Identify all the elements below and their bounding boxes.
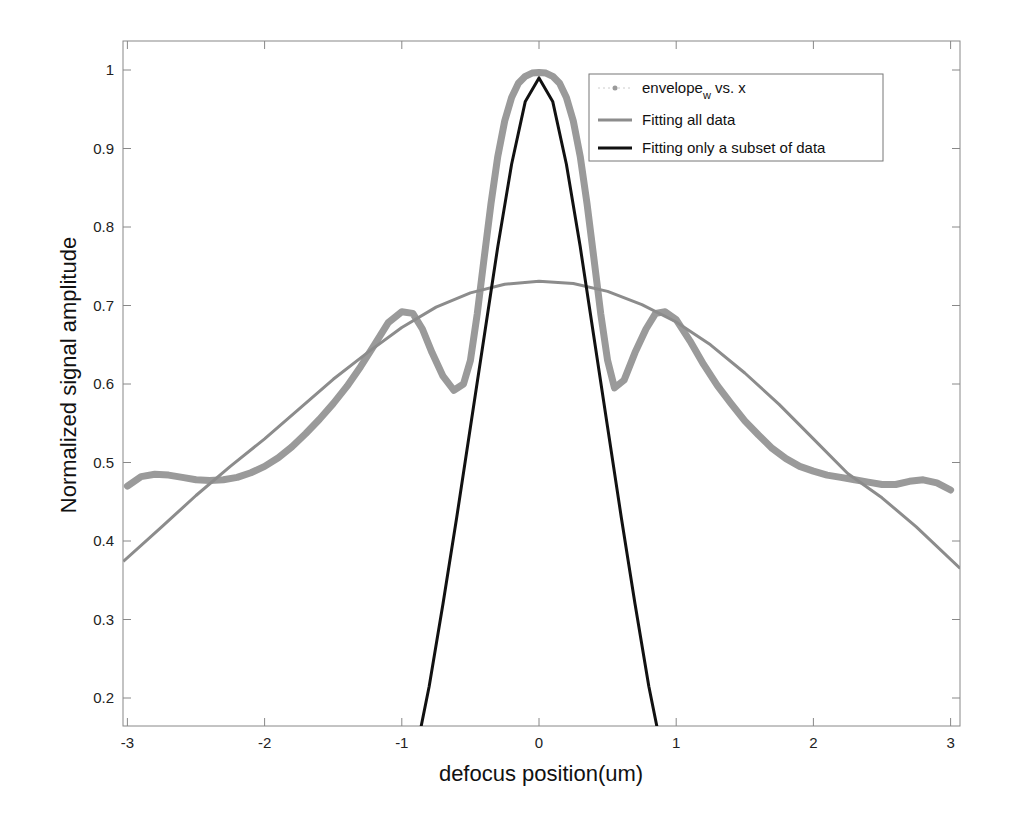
legend-entry-fit-subset: Fitting only a subset of data (642, 139, 826, 156)
legend-dot-icon (613, 86, 618, 91)
y-tick-label: 0.5 (93, 454, 114, 471)
x-tick-label: -2 (258, 734, 271, 751)
x-tick-label: 0 (535, 734, 543, 751)
y-tick-label: 1 (106, 61, 114, 78)
x-tick-label: 2 (809, 734, 817, 751)
y-axis-label: Normalized signal amplitude (56, 237, 81, 513)
x-tick-label: -1 (395, 734, 408, 751)
x-axis-label: defocus position(um) (439, 761, 643, 786)
x-tick-label: -3 (121, 734, 134, 751)
y-tick-label: 0.4 (93, 532, 114, 549)
chart-figure: -3-2-101230.20.30.40.50.60.70.80.91 defo… (0, 0, 1015, 834)
x-tick-label: 1 (672, 734, 680, 751)
y-tick-label: 0.8 (93, 218, 114, 235)
y-tick-label: 0.3 (93, 611, 114, 628)
legend: envelopew vs. x Fitting all data Fitting… (589, 74, 883, 161)
y-tick-label: 0.6 (93, 375, 114, 392)
x-tick-label: 3 (946, 734, 954, 751)
y-tick-label: 0.7 (93, 297, 114, 314)
legend-entry-fit-all: Fitting all data (642, 111, 736, 128)
y-tick-label: 0.2 (93, 689, 114, 706)
y-tick-label: 0.9 (93, 140, 114, 157)
